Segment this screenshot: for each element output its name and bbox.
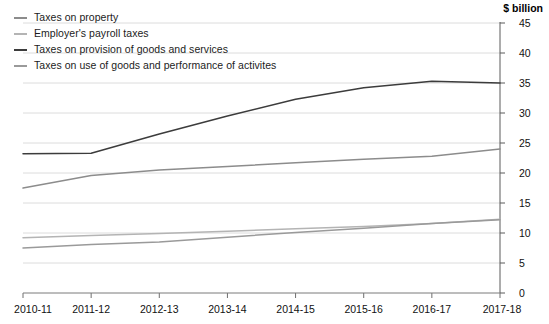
x-tick-label: 2016-17 bbox=[413, 303, 452, 315]
chart-container: Taxes on propertyEmployer's payroll taxe… bbox=[0, 0, 549, 324]
y-tick-label: 20 bbox=[519, 167, 531, 179]
legend-line-swatch-icon bbox=[14, 17, 27, 19]
legend-item-label: Taxes on use of goods and performance of… bbox=[34, 60, 276, 71]
legend-item[interactable]: Taxes on provision of goods and services bbox=[14, 42, 276, 57]
y-tick-label: 45 bbox=[519, 17, 531, 29]
legend-line-swatch-icon bbox=[14, 65, 27, 67]
x-tick-mark-group bbox=[23, 293, 500, 298]
y-tick-label: 0 bbox=[519, 287, 525, 299]
y-tick-label: 15 bbox=[519, 197, 531, 209]
legend-item-label: Taxes on property bbox=[34, 12, 118, 23]
y-tick-label: 25 bbox=[519, 137, 531, 149]
legend-line-swatch-icon bbox=[14, 33, 27, 35]
y-tick-label: 5 bbox=[519, 257, 525, 269]
legend-item[interactable]: Taxes on use of goods and performance of… bbox=[14, 58, 276, 73]
y-tick-label: 35 bbox=[519, 77, 531, 89]
data-series-line bbox=[23, 220, 500, 248]
legend-item[interactable]: Employer's payroll taxes bbox=[14, 26, 276, 41]
legend-line-swatch-icon bbox=[14, 49, 27, 51]
x-tick-label: 2017-18 bbox=[483, 303, 522, 315]
x-tick-label: 2014-15 bbox=[276, 303, 315, 315]
y-tick-label: 40 bbox=[519, 47, 531, 59]
legend-item[interactable]: Taxes on property bbox=[14, 10, 276, 25]
x-tick-label: 2015-16 bbox=[344, 303, 383, 315]
x-tick-label: 2013-14 bbox=[208, 303, 247, 315]
x-tick-label: 2012-13 bbox=[140, 303, 179, 315]
chart-legend: Taxes on propertyEmployer's payroll taxe… bbox=[14, 10, 276, 74]
x-tick-label: 2011-12 bbox=[72, 303, 110, 315]
legend-item-label: Employer's payroll taxes bbox=[34, 28, 149, 39]
y-tick-label: 30 bbox=[519, 107, 531, 119]
y-tick-label: 10 bbox=[519, 227, 531, 239]
x-tick-label: 2010-11 bbox=[14, 303, 52, 315]
data-series-line bbox=[23, 149, 500, 188]
legend-item-label: Taxes on provision of goods and services bbox=[34, 44, 228, 55]
y-tick-mark-group bbox=[500, 23, 505, 293]
data-series-group bbox=[23, 81, 500, 248]
